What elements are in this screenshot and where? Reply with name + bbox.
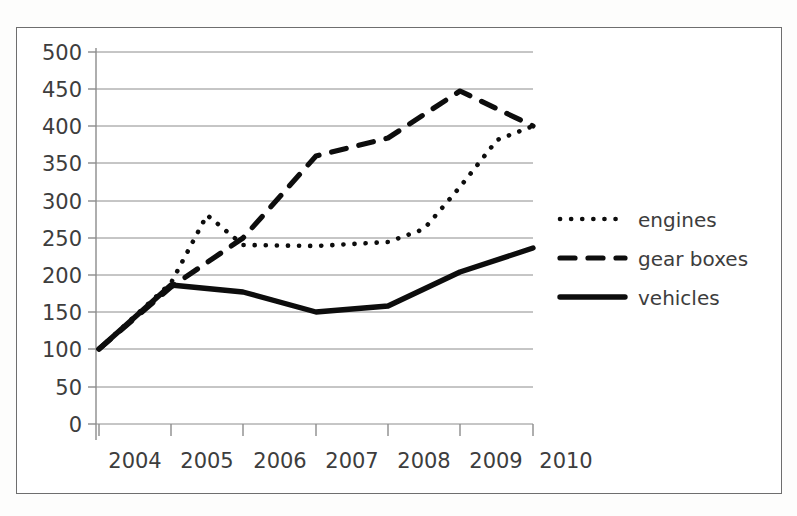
legend-label-gear-boxes: gear boxes	[638, 247, 748, 271]
line-chart: 500 450 400 350 300 250 200 150 100 50 0…	[0, 0, 797, 516]
y-axis-labels: 500 450 400 350 300 250 200 150 100 50 0	[42, 41, 82, 437]
y-axis-tick-label: 350	[42, 152, 82, 176]
legend-label-vehicles: vehicles	[638, 286, 720, 310]
x-axis-labels: 2004 2005 2006 2007 2008 2009 2010	[108, 449, 592, 473]
y-axis-gridlines	[96, 52, 533, 424]
y-axis-tick-label: 150	[42, 301, 82, 325]
x-axis-tick-label: 2005	[180, 449, 233, 473]
x-axis-tick-label: 2009	[469, 449, 522, 473]
x-axis-tick-label: 2010	[539, 449, 592, 473]
x-axis-tickmarks	[99, 424, 533, 436]
x-axis-tick-label: 2006	[253, 449, 306, 473]
y-axis-tick-label: 400	[42, 115, 82, 139]
y-axis-tick-label: 0	[69, 413, 82, 437]
plot-series-group	[99, 91, 533, 349]
y-axis-tick-label: 50	[55, 376, 82, 400]
x-axis-tick-label: 2004	[108, 449, 161, 473]
y-axis-tick-label: 500	[42, 41, 82, 65]
y-axis-tick-label: 450	[42, 78, 82, 102]
x-axis-tick-label: 2008	[397, 449, 450, 473]
x-axis-tick-label: 2007	[325, 449, 378, 473]
y-axis-tick-label: 250	[42, 227, 82, 251]
y-axis-tick-label: 100	[42, 338, 82, 362]
chart-legend: engines gear boxes vehicles	[560, 208, 748, 310]
y-axis-tick-label: 300	[42, 190, 82, 214]
chart-page: 500 450 400 350 300 250 200 150 100 50 0…	[0, 0, 797, 516]
series-line-vehicles	[99, 248, 533, 349]
y-axis-tickmarks	[88, 52, 96, 424]
y-axis-tick-label: 200	[42, 264, 82, 288]
legend-label-engines: engines	[638, 208, 717, 232]
